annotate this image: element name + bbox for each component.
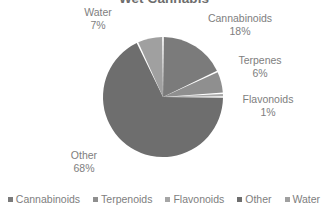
slice-label-cannabinoids-value: 18%: [190, 25, 290, 38]
legend-item-terpenoids[interactable]: Terpenoids: [93, 193, 152, 205]
slice-label-terpenes-name: Terpenes: [222, 54, 298, 67]
legend-item-other[interactable]: Other: [237, 193, 271, 205]
slice-label-terpenes: Terpenes 6%: [222, 54, 298, 79]
slice-label-cannabinoids-name: Cannabinoids: [190, 12, 290, 25]
slice-label-water-name: Water: [62, 6, 134, 19]
legend-item-label: Terpenoids: [101, 193, 152, 205]
legend-item-label: Cannabinoids: [16, 193, 80, 205]
pie-slice-group: [103, 37, 223, 157]
legend-swatch-icon: [237, 197, 242, 202]
slice-label-terpenes-value: 6%: [222, 67, 298, 80]
legend-item-cannabinoids[interactable]: Cannabinoids: [8, 193, 80, 205]
legend-item-water[interactable]: Water: [285, 193, 321, 205]
legend-swatch-icon: [8, 197, 13, 202]
legend-item-label: Other: [245, 193, 271, 205]
slice-label-other: Other 68%: [48, 149, 120, 174]
chart-legend: CannabinoidsTerpenoidsFlavonoidsOtherWat…: [0, 193, 328, 205]
legend-swatch-icon: [285, 197, 290, 202]
legend-swatch-icon: [165, 197, 170, 202]
legend-item-label: Flavonoids: [173, 193, 224, 205]
slice-label-other-name: Other: [48, 149, 120, 162]
slice-label-flavonoids: Flavonoids 1%: [222, 93, 314, 118]
legend-swatch-icon: [93, 197, 98, 202]
legend-item-label: Water: [293, 193, 321, 205]
slice-label-water-value: 7%: [62, 19, 134, 32]
pie-chart-figure: Wet Cannabis Water 7% Cannabinoids 18% T…: [0, 0, 328, 207]
slice-label-flavonoids-name: Flavonoids: [222, 93, 314, 106]
slice-label-other-value: 68%: [48, 162, 120, 175]
slice-label-water: Water 7%: [62, 6, 134, 31]
slice-label-cannabinoids: Cannabinoids 18%: [190, 12, 290, 37]
slice-label-flavonoids-value: 1%: [222, 106, 314, 119]
legend-item-flavonoids[interactable]: Flavonoids: [165, 193, 224, 205]
